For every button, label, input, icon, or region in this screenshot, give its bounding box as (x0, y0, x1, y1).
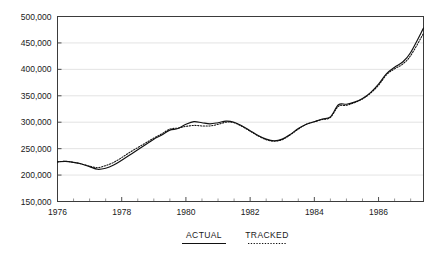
x-axis-tick-label: 1982 (241, 207, 260, 217)
y-axis-tick-label: 350,000 (21, 91, 52, 101)
legend-label-actual: ACTUAL (186, 230, 222, 240)
y-axis-tick-label: 500,000 (21, 12, 52, 22)
x-axis-tick-label: 1984 (305, 207, 324, 217)
y-axis-tick-label: 150,000 (21, 197, 52, 207)
y-axis-tick-label: 200,000 (21, 170, 52, 180)
y-axis-tick-label: 300,000 (21, 117, 52, 127)
x-axis-tick-label: 1986 (369, 207, 388, 217)
x-axis-tick-label: 1978 (112, 207, 131, 217)
chart-container: 150,000200,000250,000300,000350,000400,0… (0, 0, 444, 254)
legend-label-tracked: TRACKED (245, 230, 288, 240)
line-chart: 150,000200,000250,000300,000350,000400,0… (0, 0, 444, 254)
x-axis-tick-label: 1980 (176, 207, 195, 217)
y-axis-tick-label: 450,000 (21, 38, 52, 48)
y-axis-tick-label: 400,000 (21, 64, 52, 74)
y-axis-tick-label: 250,000 (21, 144, 52, 154)
x-axis-tick-label: 1976 (48, 207, 67, 217)
